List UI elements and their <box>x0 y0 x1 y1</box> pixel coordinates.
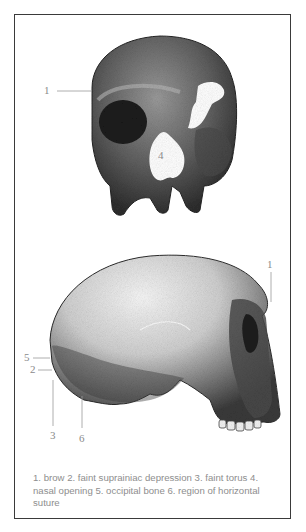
skull-illustrations <box>0 0 306 532</box>
callout-1-brow-front: 1 <box>44 85 50 96</box>
skull-front-view <box>92 36 237 215</box>
skull-side-view <box>50 255 280 431</box>
callout-1-brow-side: 1 <box>267 259 273 270</box>
figure-caption: 1. brow 2. faint suprainiac depression 3… <box>33 472 283 510</box>
callout-5-occipital-bone: 5 <box>24 352 30 363</box>
teeth <box>219 420 261 431</box>
callout-4-nasal-opening: 4 <box>158 150 164 161</box>
callout-6-horizontal-suture: 6 <box>79 433 85 444</box>
callout-2-suprainiac-depression: 2 <box>30 364 36 375</box>
callout-3-faint-torus: 3 <box>50 430 56 441</box>
